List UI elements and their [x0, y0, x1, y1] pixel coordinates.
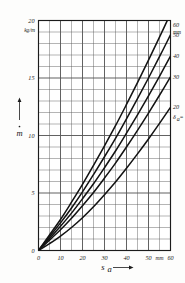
x-tick-label-30: 30: [100, 254, 108, 261]
x-axis-title-subscript: a: [108, 264, 112, 274]
curve-labels: 6050403020mmδa=: [172, 21, 184, 122]
y-tick-label-20: 20: [28, 17, 35, 24]
x-tick-label-20: 20: [79, 254, 86, 261]
y-axis-title-symbol: m: [16, 128, 22, 138]
chart-figure: 05101520kg/m0102030405060mmmsa6050403020…: [0, 0, 185, 283]
y-axis-title: m: [16, 98, 22, 139]
curve-label-30: 30: [172, 73, 180, 80]
x-tick-label-60: 60: [167, 254, 174, 261]
y-axis-arrow-head: [18, 98, 22, 103]
y-tick-label-10: 10: [28, 132, 35, 139]
y-tick-label-5: 5: [31, 189, 34, 196]
x-axis-unit: mm: [155, 255, 163, 261]
x-tick-label-50: 50: [145, 254, 152, 261]
chart-canvas: 05101520kg/m0102030405060mmmsa6050403020…: [0, 0, 185, 283]
curve-label-60: 60: [173, 21, 180, 28]
x-axis-title-symbol: s: [101, 262, 105, 272]
y-tick-label-15: 15: [28, 74, 34, 81]
x-axis-title: sa: [101, 262, 133, 274]
y-tick-label-0: 0: [31, 247, 35, 254]
curve-label-20: 20: [173, 103, 180, 110]
x-tick-label-10: 10: [57, 254, 64, 261]
y-axis-title-dot-accent: [19, 126, 21, 128]
curve-label-40: 40: [173, 52, 180, 59]
parameter-symbol: δ: [173, 114, 176, 120]
curve-label-unit: mm: [173, 29, 181, 35]
x-axis-arrow-head: [129, 266, 134, 270]
x-tick-label-0: 0: [37, 254, 41, 261]
parameter-equals: =: [180, 114, 184, 120]
x-tick-label-40: 40: [123, 254, 130, 261]
y-axis-unit: kg/m: [24, 27, 35, 33]
